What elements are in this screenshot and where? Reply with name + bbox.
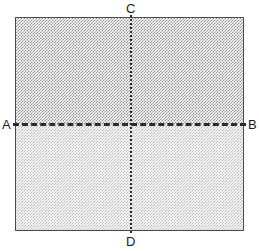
- label-d: D: [126, 235, 135, 248]
- geometry-figure: A B C D: [0, 0, 259, 251]
- dotted-line-cd: [130, 15, 132, 233]
- label-c: C: [126, 2, 135, 15]
- label-b: B: [248, 118, 257, 131]
- label-a: A: [2, 118, 11, 131]
